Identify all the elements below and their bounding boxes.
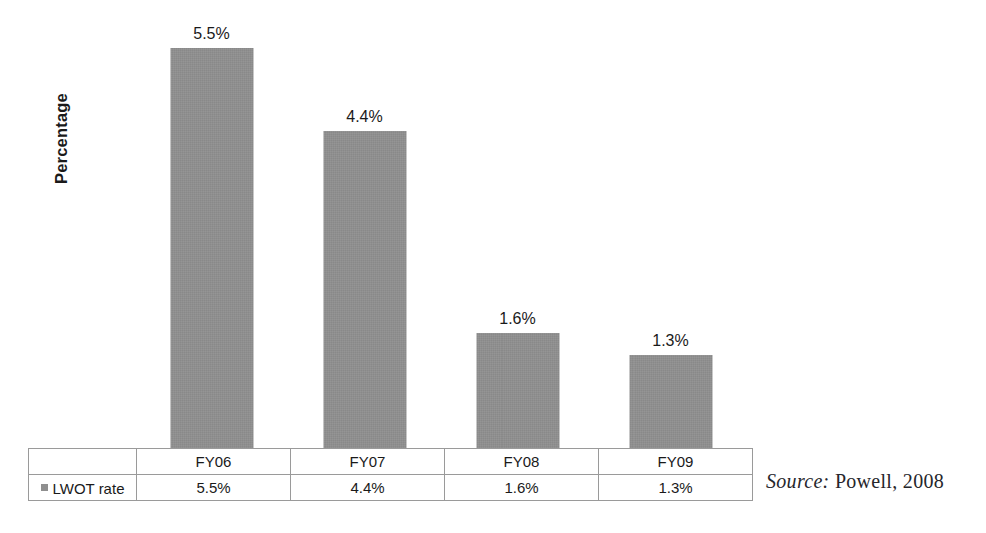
y-axis-title: Percentage bbox=[52, 34, 76, 184]
bar-value-label-fy08: 1.6% bbox=[499, 311, 535, 327]
bar-fy06[interactable] bbox=[170, 48, 253, 448]
data-table-wrapper: FY06 FY07 FY08 FY09 LWOT rate 5.5% 4.4% … bbox=[28, 448, 748, 501]
legend-swatch-icon bbox=[41, 484, 48, 491]
source-label: Source: bbox=[766, 470, 830, 492]
bar-fy07[interactable] bbox=[323, 131, 406, 448]
value-cell-fy09: 1.3% bbox=[599, 475, 753, 501]
bar-chart-figure: Percentage 5.5% 4.4% 1.6% 1.3% FY06 FY07 bbox=[0, 0, 986, 533]
bar-value-label-fy06: 5.5% bbox=[193, 26, 229, 42]
value-cell-fy07: 4.4% bbox=[291, 475, 445, 501]
legend-cell: LWOT rate bbox=[29, 475, 137, 501]
bar-value-label-fy09: 1.3% bbox=[652, 333, 688, 349]
bar-value-label-fy07: 4.4% bbox=[346, 109, 382, 125]
legend-label: LWOT rate bbox=[53, 480, 125, 497]
value-cell-fy06: 5.5% bbox=[137, 475, 291, 501]
plot-area: 5.5% 4.4% 1.6% 1.3% bbox=[135, 20, 748, 448]
table-row-categories: FY06 FY07 FY08 FY09 bbox=[29, 449, 753, 475]
bar-slot-fy08: 1.6% bbox=[441, 20, 594, 448]
bar-fy08[interactable] bbox=[476, 333, 559, 448]
category-cell-fy07: FY07 bbox=[291, 449, 445, 475]
bar-fy09[interactable] bbox=[629, 355, 712, 448]
category-cell-fy08: FY08 bbox=[445, 449, 599, 475]
bar-slot-fy07: 4.4% bbox=[288, 20, 441, 448]
category-cell-fy09: FY09 bbox=[599, 449, 753, 475]
legend-spacer-cell bbox=[29, 449, 137, 475]
source-value: Powell, 2008 bbox=[835, 470, 944, 492]
category-cell-fy06: FY06 bbox=[137, 449, 291, 475]
bar-slot-fy06: 5.5% bbox=[135, 20, 288, 448]
bar-slot-fy09: 1.3% bbox=[594, 20, 747, 448]
source-citation: Source: Powell, 2008 bbox=[766, 470, 944, 493]
table-row-values: LWOT rate 5.5% 4.4% 1.6% 1.3% bbox=[29, 475, 753, 501]
chart-data-table: FY06 FY07 FY08 FY09 LWOT rate 5.5% 4.4% … bbox=[28, 448, 753, 501]
value-cell-fy08: 1.6% bbox=[445, 475, 599, 501]
